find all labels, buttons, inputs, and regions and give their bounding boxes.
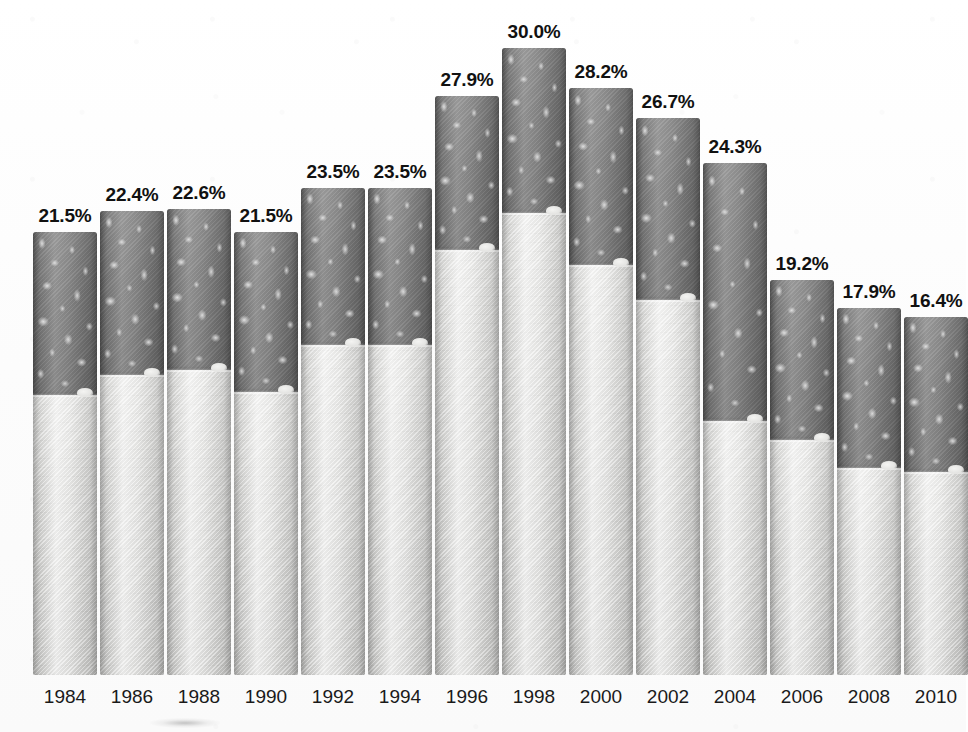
x-axis-label-2002: 2002 [636,686,700,708]
cigarette-filter-section [33,395,97,675]
cigarette-filter-section [837,468,901,675]
cigarette-tobacco-section [904,317,968,472]
value-label-1992: 23.5% [301,161,365,183]
cigarette-tobacco-section [435,96,499,250]
x-axis-label-2008: 2008 [837,686,901,708]
bar-1996[interactable] [435,96,499,675]
value-label-1986: 22.4% [100,184,164,206]
cigarette-filter-section [368,345,432,675]
tobacco-speckle-texture [904,317,968,472]
cigarette-tobacco-section [167,209,231,370]
bar-1990[interactable] [234,232,298,675]
bar-2006[interactable] [770,280,834,675]
value-label-1988: 22.6% [167,182,231,204]
tobacco-speckle-texture [569,88,633,265]
cigarette-filter-section [167,370,231,675]
cigarette-tobacco-section [636,118,700,300]
cigarette-filter-section [636,300,700,675]
bar-body-1988 [167,209,231,675]
bar-body-2002 [636,118,700,675]
value-label-1984: 21.5% [33,205,97,227]
cigarette-filter-section [770,440,834,675]
bar-body-1984 [33,232,97,675]
tobacco-speckle-texture [837,308,901,468]
bar-1986[interactable] [100,211,164,675]
cigarette-filter-section [435,250,499,675]
value-label-2008: 17.9% [837,281,901,303]
cigarette-filter-section [100,375,164,675]
tobacco-speckle-texture [703,163,767,421]
bar-1998[interactable] [502,48,566,675]
tobacco-speckle-texture [502,48,566,213]
cigarette-tobacco-section [837,308,901,468]
bar-1984[interactable] [33,232,97,675]
x-axis-label-1986: 1986 [100,686,164,708]
bar-2008[interactable] [837,308,901,675]
x-axis-label-1994: 1994 [368,686,432,708]
bar-body-1996 [435,96,499,675]
bar-body-1994 [368,188,432,675]
bar-body-1998 [502,48,566,675]
tobacco-speckle-texture [636,118,700,300]
value-label-2002: 26.7% [636,91,700,113]
cigarette-filter-section [904,472,968,675]
bar-2010[interactable] [904,317,968,675]
tobacco-speckle-texture [301,188,365,345]
bar-2002[interactable] [636,118,700,675]
cigarette-tobacco-section [234,232,298,392]
cigarette-tobacco-section [33,232,97,395]
value-label-1990: 21.5% [234,205,298,227]
x-axis-label-2010: 2010 [904,686,968,708]
x-axis-label-1988: 1988 [167,686,231,708]
value-label-2006: 19.2% [770,253,834,275]
cigarette-filter-section [569,265,633,675]
cigarette-tobacco-section [301,188,365,345]
tobacco-speckle-texture [368,188,432,345]
bar-1994[interactable] [368,188,432,675]
bar-body-1986 [100,211,164,675]
cigarette-filter-section [703,421,767,675]
cigarette-tobacco-section [703,163,767,421]
value-label-1996: 27.9% [435,69,499,91]
bar-body-2004 [703,163,767,675]
cigarette-tobacco-section [100,211,164,375]
x-axis-label-1992: 1992 [301,686,365,708]
bar-1988[interactable] [167,209,231,675]
cigarette-filter-section [234,392,298,675]
cigarette-tobacco-section [569,88,633,265]
cigarette-tobacco-section [502,48,566,213]
tobacco-speckle-texture [100,211,164,375]
bar-body-2010 [904,317,968,675]
value-label-2010: 16.4% [904,290,968,312]
tobacco-speckle-texture [33,232,97,395]
bar-1992[interactable] [301,188,365,675]
tobacco-speckle-texture [770,280,834,440]
value-label-1998: 30.0% [502,21,566,43]
tobacco-speckle-texture [435,96,499,250]
value-label-1994: 23.5% [368,161,432,183]
x-axis-label-1984: 1984 [33,686,97,708]
value-label-2000: 28.2% [569,61,633,83]
bar-body-2008 [837,308,901,675]
bar-2000[interactable] [569,88,633,675]
x-axis-label-1990: 1990 [234,686,298,708]
bar-body-2006 [770,280,834,675]
x-axis-label-2000: 2000 [569,686,633,708]
bar-body-1992 [301,188,365,675]
x-axis-label-1996: 1996 [435,686,499,708]
bar-2004[interactable] [703,163,767,675]
tobacco-speckle-texture [167,209,231,370]
cigarette-filter-section [301,345,365,675]
cigarette-tobacco-section [368,188,432,345]
value-label-2004: 24.3% [703,136,767,158]
x-axis-label-1998: 1998 [502,686,566,708]
tobacco-speckle-texture [234,232,298,392]
cigarette-filter-section [502,213,566,675]
bar-body-2000 [569,88,633,675]
x-axis-label-2006: 2006 [770,686,834,708]
bar-body-1990 [234,232,298,675]
x-axis-label-2004: 2004 [703,686,767,708]
cigarette-tobacco-section [770,280,834,440]
